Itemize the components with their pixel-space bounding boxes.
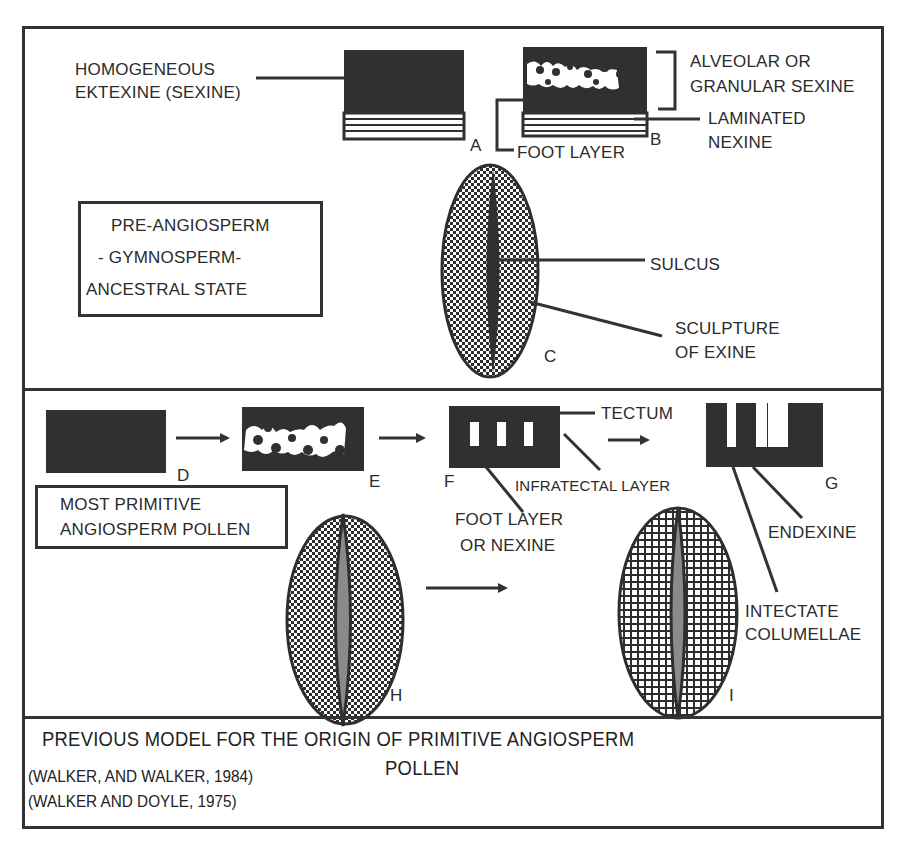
figure-title-line-1: PREVIOUS MODEL FOR THE ORIGIN OF PRIMITI… — [42, 728, 634, 751]
label-laminated-2: NEXINE — [708, 131, 773, 154]
label-sulcus: SULCUS — [650, 253, 720, 276]
label-intectate-1: INTECTATE — [745, 600, 839, 623]
citation-2: (WALKER AND DOYLE, 1975) — [28, 792, 237, 812]
primitive-pollen-line-2: ANGIOSPERM POLLEN — [60, 518, 250, 541]
letter-b: B — [650, 128, 662, 151]
letter-h: H — [390, 684, 402, 707]
label-foot-layer-nexine-2: OR NEXINE — [460, 534, 555, 557]
label-foot-layer-nexine-1: FOOT LAYER — [455, 508, 563, 531]
ancestral-state-line-3: ANCESTRAL STATE — [86, 278, 247, 301]
letter-c: C — [544, 345, 556, 368]
label-endexine: ENDEXINE — [768, 521, 857, 544]
letter-g: G — [825, 472, 838, 495]
label-homogeneous-1: HOMOGENEOUS — [75, 58, 215, 81]
letter-a: A — [470, 134, 482, 157]
ancestral-state-box: PRE-ANGIOSPERM - GYMNOSPERM- ANCESTRAL S… — [78, 201, 323, 317]
primitive-pollen-box: MOST PRIMITIVE ANGIOSPERM POLLEN — [35, 485, 288, 549]
label-alveolar-1: ALVEOLAR OR — [690, 50, 811, 73]
label-sculpture-2: OF EXINE — [675, 341, 756, 364]
citation-1: (WALKER, AND WALKER, 1984) — [28, 767, 253, 787]
label-laminated-1: LAMINATED — [708, 107, 806, 130]
ancestral-state-line-1: PRE-ANGIOSPERM — [111, 214, 270, 237]
letter-d: D — [177, 464, 189, 487]
label-foot-layer: FOOT LAYER — [517, 141, 625, 164]
divider-top-bottom — [22, 388, 884, 391]
letter-f: F — [444, 470, 455, 493]
letter-e: E — [369, 470, 381, 493]
letter-i: I — [729, 684, 734, 707]
divider-caption — [22, 716, 884, 719]
label-alveolar-2: GRANULAR SEXINE — [690, 75, 855, 98]
label-intectate-2: COLUMELLAE — [745, 623, 861, 646]
label-infratectal: INFRATECTAL LAYER — [515, 474, 670, 497]
figure-title-line-2: POLLEN — [385, 757, 459, 780]
label-tectum: TECTUM — [601, 402, 673, 425]
primitive-pollen-line-1: MOST PRIMITIVE — [60, 493, 201, 516]
ancestral-state-line-2: - GYMNOSPERM- — [98, 246, 241, 269]
label-homogeneous-2: EKTEXINE (SEXINE) — [75, 81, 241, 104]
label-sculpture-1: SCULPTURE — [675, 317, 780, 340]
